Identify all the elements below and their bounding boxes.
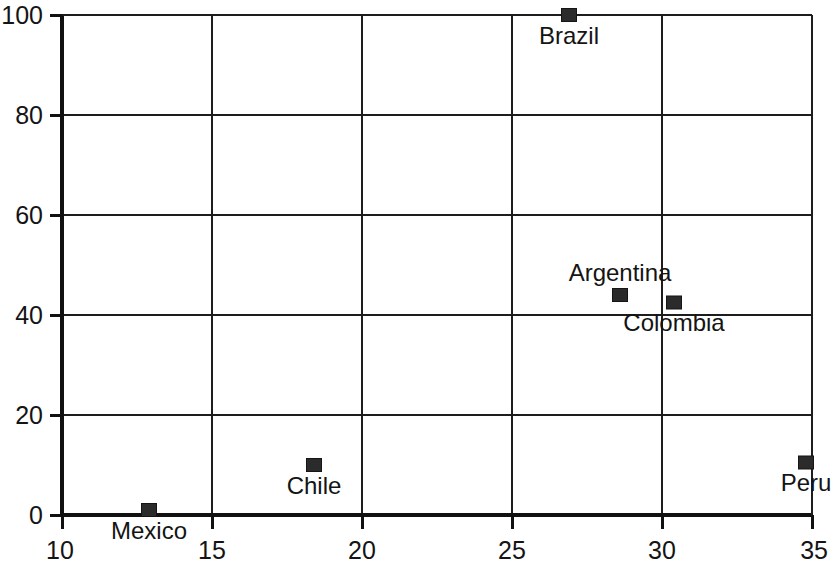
plot-area: 101520253035 020406080100 BrazilArgentin…	[0, 0, 836, 575]
data-point-label: Argentina	[569, 259, 672, 286]
data-point-markers	[142, 9, 814, 517]
y-tick-label: 80	[15, 101, 43, 129]
y-axis-tick-labels: 020406080100	[1, 1, 43, 529]
x-tick-label: 25	[498, 536, 526, 564]
data-point-marker	[562, 9, 577, 22]
y-tick-label: 100	[1, 1, 43, 29]
tick-marks	[50, 15, 812, 529]
x-tick-label: 35	[800, 536, 828, 564]
x-tick-label: 20	[348, 536, 376, 564]
x-tick-label: 15	[198, 536, 226, 564]
data-point-marker	[142, 504, 157, 517]
data-point-labels: BrazilArgentinaColombiaPeruChileMexico	[111, 22, 831, 544]
data-point-label: Colombia	[623, 309, 725, 336]
data-point-marker	[307, 459, 322, 472]
data-point-label: Chile	[287, 472, 342, 499]
axis-lines	[62, 15, 812, 515]
data-point-marker	[613, 289, 628, 302]
data-point-label: Peru	[781, 469, 832, 496]
data-point-marker	[799, 456, 814, 469]
y-tick-label: 0	[29, 501, 43, 529]
scatter-chart: 101520253035 020406080100 BrazilArgentin…	[0, 0, 836, 575]
y-tick-label: 40	[15, 301, 43, 329]
grid-lines	[62, 15, 812, 515]
x-tick-label: 30	[648, 536, 676, 564]
data-point-marker	[667, 296, 682, 309]
data-point-label: Mexico	[111, 517, 187, 544]
y-tick-label: 20	[15, 401, 43, 429]
data-point-label: Brazil	[539, 22, 599, 49]
x-tick-label: 10	[46, 536, 74, 564]
y-tick-label: 60	[15, 201, 43, 229]
